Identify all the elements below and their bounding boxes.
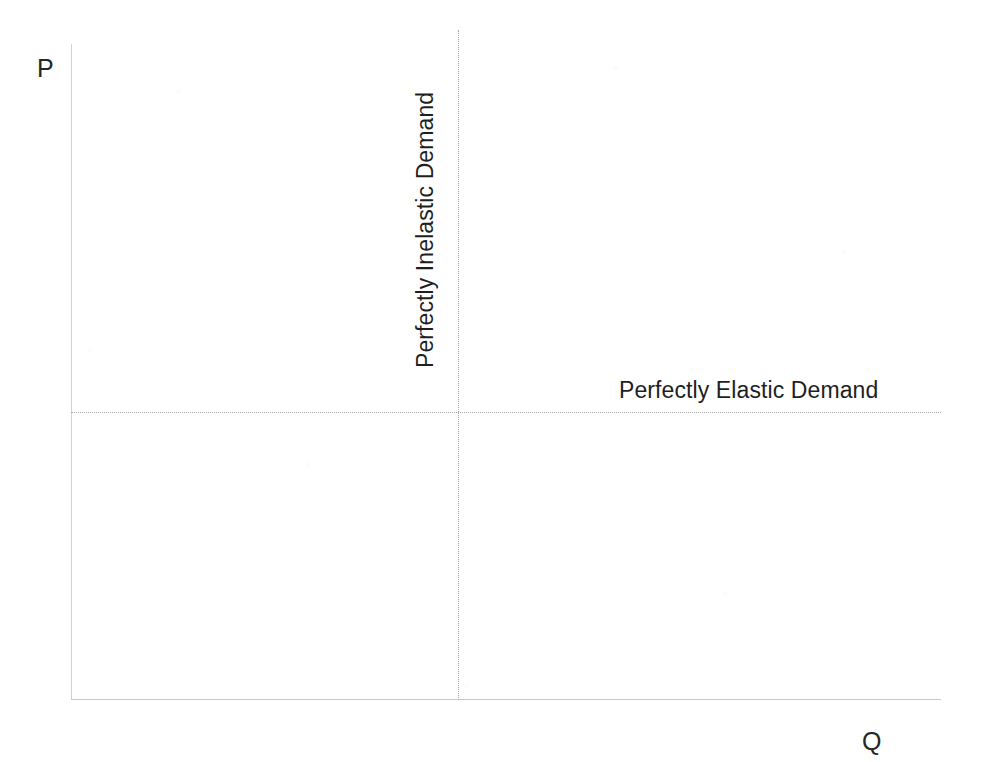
perfectly-elastic-demand-label: Perfectly Elastic Demand: [619, 379, 878, 402]
y-axis-label: P: [37, 56, 54, 81]
elasticity-diagram: P Q Perfectly Inelastic Demand Perfectly…: [0, 0, 993, 762]
x-axis-label: Q: [862, 729, 882, 754]
perfectly-elastic-demand-curve: [71, 412, 941, 413]
y-axis-line: [71, 44, 72, 700]
perfectly-inelastic-demand-label: Perfectly Inelastic Demand: [414, 92, 437, 368]
perfectly-inelastic-demand-curve: [458, 30, 459, 700]
x-axis-line: [71, 699, 941, 700]
